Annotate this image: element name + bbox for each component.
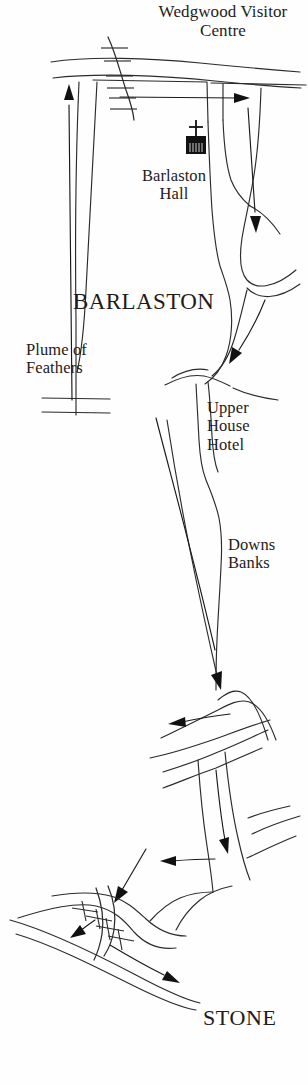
church-icon (186, 120, 206, 154)
arrow-south-mid (229, 300, 265, 364)
arrow-west-downs (168, 714, 230, 727)
downs-banks-junction (150, 691, 276, 788)
label-plume-of-feathers: Plume of Feathers (26, 341, 87, 378)
downs-road (167, 420, 218, 680)
label-barlaston-hall: Barlaston Hall (126, 167, 222, 204)
label-upper-house-hotel: Upper House Hotel (207, 399, 250, 454)
arrow-southwest (114, 849, 146, 903)
arrow-south-lower (216, 770, 229, 854)
arrow-east-top (120, 93, 250, 103)
railway-line-south (72, 886, 134, 960)
label-wedgwood-visitor-centre: Wedgwood Visitor Centre (140, 2, 306, 40)
arrow-crossing (70, 920, 95, 938)
label-downs-banks: Downs Banks (228, 536, 275, 573)
southern-roads (198, 752, 300, 892)
stone-road (10, 893, 200, 1010)
crossing-link-road (150, 886, 232, 930)
route-map: Wedgwood Visitor Centre Barlaston Hall B… (0, 0, 308, 1085)
railway-line (101, 37, 137, 120)
label-stone: STONE (203, 1006, 277, 1031)
eastern-road-system (205, 88, 300, 384)
arrow-west-lower (160, 856, 215, 866)
arrow-stone (110, 945, 180, 983)
label-barlaston: BARLASTON (73, 289, 214, 315)
arrow-south-downs (156, 418, 222, 690)
